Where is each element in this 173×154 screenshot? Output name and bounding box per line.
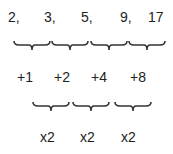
underbrace-icon <box>13 40 51 52</box>
ratio-label: x2 <box>80 130 95 144</box>
sequence-term: 17 <box>148 10 164 24</box>
difference-label: +8 <box>130 70 146 84</box>
difference-label: +1 <box>17 70 33 84</box>
difference-label: +4 <box>91 70 107 84</box>
sequence-term: 2, <box>8 10 20 24</box>
underbrace-icon <box>51 40 89 52</box>
underbrace-icon <box>32 101 70 113</box>
underbrace-icon <box>114 101 152 113</box>
underbrace-icon <box>72 101 110 113</box>
sequence-term: 9, <box>120 10 132 24</box>
underbrace-icon <box>90 40 128 52</box>
difference-label: +2 <box>54 70 70 84</box>
sequence-term: 3, <box>44 10 56 24</box>
sequence-term: 5, <box>81 10 93 24</box>
ratio-label: x2 <box>121 130 136 144</box>
ratio-label: x2 <box>40 130 55 144</box>
underbrace-icon <box>128 40 166 52</box>
